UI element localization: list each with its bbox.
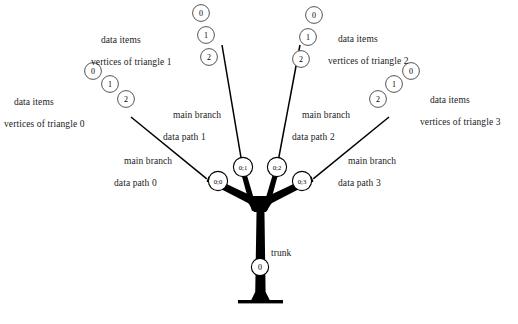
branch-0-caption-line2: data path 0 bbox=[114, 178, 172, 189]
branch-3-caption-line2: data path 3 bbox=[338, 178, 396, 189]
branch-1-stem bbox=[241, 172, 257, 211]
triangle-1-vertex-0-label: 0 bbox=[199, 9, 203, 18]
trunk-caption: trunk bbox=[261, 237, 291, 270]
triangle-3-vertex-0-label: 0 bbox=[409, 67, 413, 76]
triangle-2-vertex-1[interactable]: 1 bbox=[300, 29, 317, 46]
triangle-2-vertex-2[interactable]: 2 bbox=[293, 51, 310, 68]
triangle-1-vertices: 0 1 2 bbox=[193, 5, 218, 66]
branch-1-caption-line1: main branch bbox=[173, 110, 221, 120]
triangle-0-vertex-2-label: 2 bbox=[124, 95, 128, 104]
triangle-2-caption-line2: vertices of triangle 2 bbox=[328, 56, 409, 67]
branch-2-node-label: 0;2 bbox=[273, 164, 281, 171]
branch-1-node-label: 0;1 bbox=[239, 164, 247, 171]
branch-1-limb bbox=[222, 45, 244, 172]
triangle-2-vertex-2-label: 2 bbox=[299, 55, 303, 64]
triangle-0-caption: data items vertices of triangle 0 bbox=[4, 86, 85, 152]
branch-3-node-label: 0;3 bbox=[298, 178, 307, 185]
trunk-base bbox=[238, 300, 283, 303]
triangle-3-vertex-2[interactable]: 2 bbox=[370, 91, 387, 108]
triangle-1-caption-line2: vertices of triangle 1 bbox=[91, 57, 172, 68]
branch-0-node[interactable]: 0;0 bbox=[208, 171, 227, 190]
triangle-1-caption: data items vertices of triangle 1 bbox=[91, 24, 172, 90]
figure-bottom-caption: Figure 1: tree structure bbox=[0, 317, 518, 324]
triangle-0-vertex-2[interactable]: 2 bbox=[118, 91, 135, 108]
triangle-3-caption-line1: data items bbox=[430, 95, 470, 105]
triangle-1-vertex-2-label: 2 bbox=[207, 53, 211, 62]
branch-1-caption: main branch data path 1 bbox=[163, 99, 221, 165]
branch-3-node[interactable]: 0;3 bbox=[292, 171, 311, 190]
branch-2-node[interactable]: 0;2 bbox=[267, 157, 286, 176]
tree-diagram: 0 0;0 0;1 0;2 0;3 0 1 bbox=[0, 0, 518, 324]
triangle-2-caption-line1: data items bbox=[338, 34, 378, 44]
triangle-3-caption: data items vertices of triangle 3 bbox=[420, 84, 501, 150]
triangle-3-caption-line2: vertices of triangle 3 bbox=[420, 117, 501, 128]
figure-canvas: 0 0;0 0;1 0;2 0;3 0 1 bbox=[0, 0, 518, 324]
trunk-caption-text: trunk bbox=[271, 248, 292, 258]
triangle-2-vertex-0[interactable]: 0 bbox=[306, 7, 323, 24]
triangle-1-vertex-0[interactable]: 0 bbox=[193, 5, 210, 22]
triangle-3-vertex-2-label: 2 bbox=[376, 95, 380, 104]
triangle-2-caption: data items vertices of triangle 2 bbox=[328, 23, 409, 89]
branch-3-caption: main branch data path 3 bbox=[338, 145, 396, 211]
branch-1-node[interactable]: 0;1 bbox=[233, 157, 252, 176]
triangle-1-vertex-2[interactable]: 2 bbox=[201, 49, 218, 66]
triangle-1-vertex-1-label: 1 bbox=[204, 31, 208, 40]
triangle-2-vertex-0-label: 0 bbox=[312, 11, 316, 20]
triangle-0-caption-line1: data items bbox=[14, 97, 54, 107]
triangle-1-vertex-1[interactable]: 1 bbox=[198, 27, 215, 44]
branch-0-node-label: 0;0 bbox=[214, 178, 223, 185]
triangle-2-vertex-1-label: 1 bbox=[306, 33, 310, 42]
branch-2-caption-line2: data path 2 bbox=[292, 132, 350, 143]
triangle-0-caption-line2: vertices of triangle 0 bbox=[4, 119, 85, 130]
trunk-flare bbox=[251, 292, 270, 300]
branch-3-caption-line1: main branch bbox=[348, 156, 396, 166]
triangle-1-caption-line1: data items bbox=[101, 35, 141, 45]
branch-1-caption-line2: data path 1 bbox=[163, 132, 221, 143]
triangle-2-vertices: 0 1 2 bbox=[293, 7, 323, 68]
branch-2-caption-line1: main branch bbox=[302, 110, 350, 120]
